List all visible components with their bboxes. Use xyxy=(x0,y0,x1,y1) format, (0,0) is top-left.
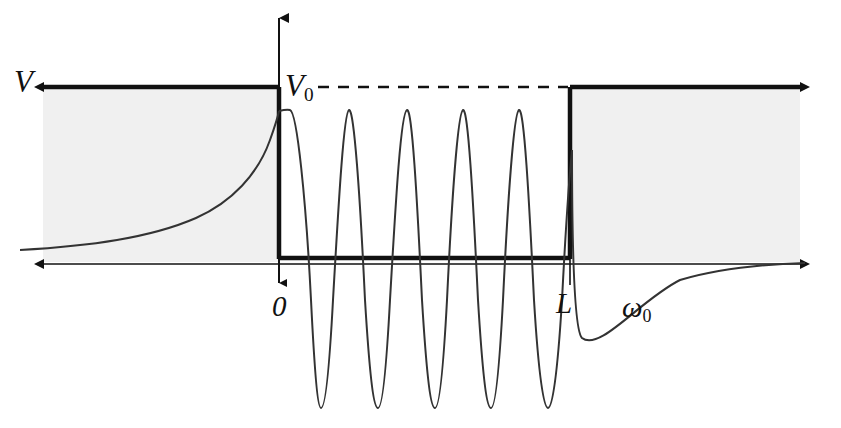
barrier-height-symbol: V xyxy=(285,68,304,103)
well-left-edge-label: 0 xyxy=(272,292,287,321)
right-barrier-region xyxy=(570,87,800,262)
decay-constant-label: ω0 xyxy=(622,293,651,325)
barrier-height-subscript: 0 xyxy=(304,84,314,105)
potential-well-diagram: V V0 0 L ω0 xyxy=(0,0,841,428)
potential-axis-label: V xyxy=(14,66,33,97)
decay-constant-subscript: 0 xyxy=(642,306,651,326)
decay-constant-symbol: ω xyxy=(622,291,642,323)
barrier-height-label: V0 xyxy=(285,70,314,105)
diagram-canvas xyxy=(0,0,841,428)
left-barrier-region xyxy=(43,87,279,262)
well-right-edge-label: L xyxy=(556,289,572,318)
